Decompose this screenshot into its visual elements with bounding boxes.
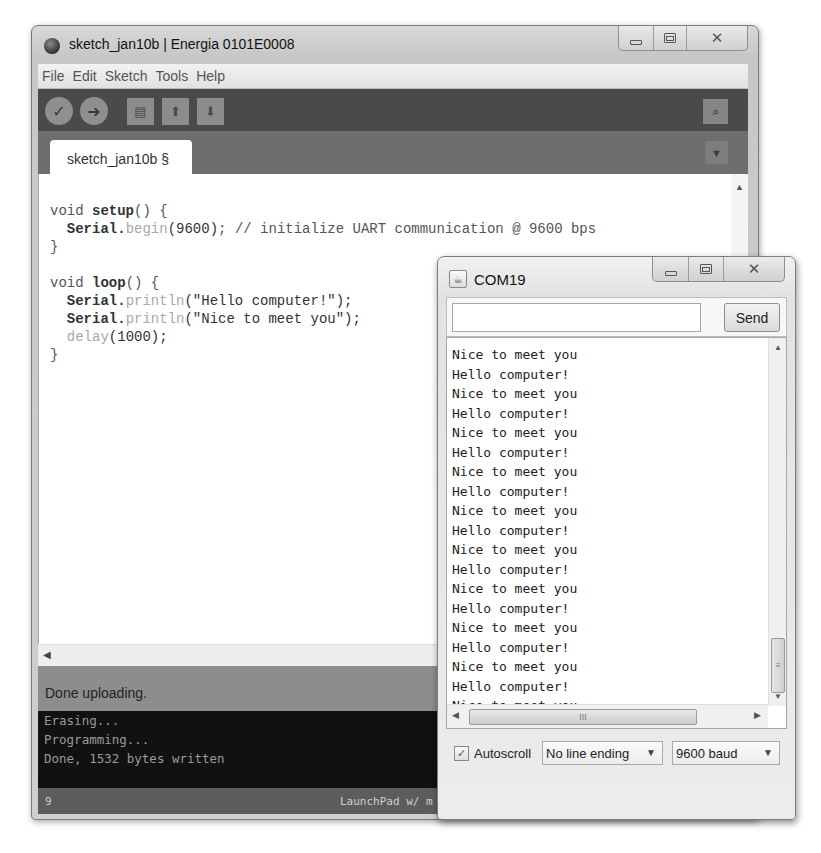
window-controls: ✕ (618, 26, 748, 51)
java-cup-icon: ☕ (449, 270, 467, 288)
window-title: sketch_jan10b | Energia 0101E0008 (69, 36, 294, 52)
minimize-button[interactable] (619, 26, 654, 50)
menu-help[interactable]: Help (196, 68, 225, 84)
menu-edit[interactable]: Edit (73, 68, 97, 84)
code-line: Serial.begin(9600); // initialize UART c… (50, 220, 596, 238)
line-number: 9 (45, 795, 52, 808)
send-input[interactable] (452, 303, 701, 332)
close-icon: ✕ (748, 260, 761, 278)
line-ending-select[interactable]: No line ending ▼ (542, 741, 663, 765)
arrow-up-icon: ⬆ (170, 104, 181, 119)
checkmark-icon: ✓ (457, 747, 466, 760)
scroll-left-icon[interactable]: ◀ (452, 710, 459, 720)
serial-line: Nice to meet you (452, 657, 577, 677)
upload-button[interactable]: ➜ (80, 97, 108, 125)
serial-line: Nice to meet you (452, 579, 577, 599)
menu-bar: File Edit Sketch Tools Help (38, 64, 748, 89)
scroll-down-icon[interactable]: ▼ (774, 692, 782, 701)
magnifier-icon: ⌕ (712, 104, 719, 120)
line-ending-value: No line ending (546, 746, 629, 761)
chevron-down-icon: ▼ (711, 147, 722, 159)
autoscroll-label: Autoscroll (474, 746, 531, 761)
serial-line: Hello computer! (452, 404, 577, 424)
tab-bar: sketch_jan10b § ▼ (38, 131, 748, 174)
serial-line: Nice to meet you (452, 462, 577, 482)
serial-horizontal-scrollbar[interactable]: ◀ III ▶ (447, 704, 768, 728)
serial-line: Hello computer! (452, 521, 577, 541)
save-button[interactable]: ⬇ (197, 98, 224, 125)
scroll-left-icon[interactable]: ◀ (43, 649, 51, 660)
arrow-down-icon: ⬇ (205, 104, 216, 119)
close-icon: ✕ (711, 29, 724, 47)
scroll-up-icon[interactable]: ▲ (774, 343, 782, 352)
scroll-up-icon[interactable]: ▲ (735, 182, 744, 192)
serial-close-button[interactable]: ✕ (724, 257, 784, 281)
editor-titlebar[interactable]: sketch_jan10b | Energia 0101E0008 ✕ (32, 26, 758, 64)
new-button[interactable]: ▤ (127, 98, 154, 125)
scroll-thumb[interactable]: ≡ (771, 638, 785, 693)
maximize-icon (700, 264, 712, 274)
code-line: void setup() { (50, 202, 596, 220)
tab-sketch-jan10b[interactable]: sketch_jan10b § (50, 140, 192, 174)
chevron-down-icon: ▼ (646, 747, 656, 758)
open-button[interactable]: ⬆ (162, 98, 189, 125)
new-file-icon: ▤ (134, 104, 146, 119)
autoscroll-checkbox[interactable]: ✓ (454, 746, 469, 761)
serial-output-text: Nice to meet youHello computer!Nice to m… (452, 345, 577, 716)
serial-monitor-button[interactable]: ⌕ (703, 99, 728, 124)
scroll-right-icon[interactable]: ▶ (754, 710, 761, 720)
send-button[interactable]: Send (724, 303, 780, 332)
serial-line: Hello computer! (452, 599, 577, 619)
serial-line: Hello computer! (452, 638, 577, 658)
serial-monitor-window: ☕ COM19 ✕ Send Nice to meet youHello com… (437, 256, 796, 820)
energia-logo-icon (44, 38, 60, 54)
baud-rate-select[interactable]: 9600 baud ▼ (672, 741, 780, 765)
serial-window-controls: ✕ (652, 257, 785, 282)
maximize-button[interactable] (654, 26, 687, 50)
serial-vertical-scrollbar[interactable]: ▲ ≡ ▼ (768, 338, 786, 706)
tab-menu-button[interactable]: ▼ (705, 141, 728, 164)
serial-line: Hello computer! (452, 677, 577, 697)
serial-line: Nice to meet you (452, 540, 577, 560)
code-line: } (50, 238, 596, 256)
serial-line: Nice to meet you (452, 423, 577, 443)
horizontal-scroll-thumb[interactable]: III (469, 709, 697, 725)
serial-minimize-button[interactable] (653, 257, 689, 281)
serial-line: Nice to meet you (452, 618, 577, 638)
send-row: Send (446, 297, 787, 337)
arrow-right-icon: ➜ (87, 102, 100, 121)
close-button[interactable]: ✕ (687, 26, 747, 50)
serial-titlebar[interactable]: ☕ COM19 ✕ (438, 257, 795, 293)
serial-line: Hello computer! (452, 443, 577, 463)
serial-line: Nice to meet you (452, 384, 577, 404)
maximize-icon (664, 33, 676, 43)
serial-line: Hello computer! (452, 560, 577, 580)
check-icon: ✓ (52, 102, 65, 121)
menu-sketch[interactable]: Sketch (105, 68, 148, 84)
serial-line: Hello computer! (452, 482, 577, 502)
serial-line: Nice to meet you (452, 345, 577, 365)
serial-window-title: COM19 (474, 271, 526, 288)
board-name: LaunchPad w/ m (340, 795, 433, 808)
chevron-down-icon: ▼ (763, 747, 773, 758)
minimize-icon (630, 40, 642, 45)
serial-line: Nice to meet you (452, 501, 577, 521)
serial-maximize-button[interactable] (689, 257, 724, 281)
serial-options-bar: ✓ Autoscroll No line ending ▼ 9600 baud … (446, 735, 787, 775)
menu-file[interactable]: File (42, 68, 65, 84)
baud-rate-value: 9600 baud (676, 746, 737, 761)
serial-line: Hello computer! (452, 365, 577, 385)
minimize-icon (665, 271, 677, 276)
serial-output[interactable]: Nice to meet youHello computer!Nice to m… (446, 337, 787, 729)
menu-tools[interactable]: Tools (156, 68, 189, 84)
verify-button[interactable]: ✓ (45, 97, 73, 125)
toolbar: ✓ ➜ ▤ ⬆ ⬇ ⌕ (38, 89, 748, 131)
